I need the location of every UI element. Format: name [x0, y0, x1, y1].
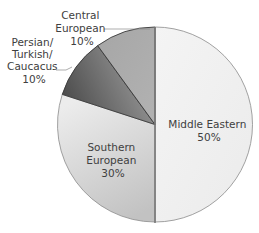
label-central-european: Central European 10%	[55, 9, 108, 47]
pie-chart: Middle Eastern 50% Southern European 30%…	[0, 0, 259, 233]
label-persian-turkish-caucacus: Persian/ Turkish/ Caucacus 10%	[7, 36, 61, 85]
